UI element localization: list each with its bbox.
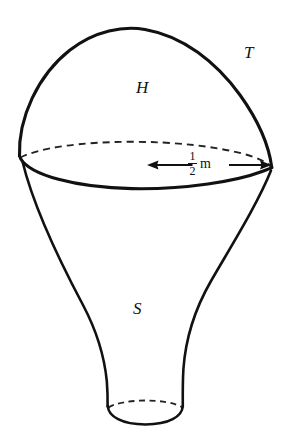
stem-right-edge — [183, 171, 271, 407]
dimension-unit: m — [200, 157, 211, 171]
solid-of-revolution-drawing — [0, 0, 289, 445]
stem-base-hidden-arc — [109, 401, 183, 408]
fraction-one-half: 1 2 — [188, 150, 197, 177]
stem-left-edge — [23, 162, 108, 407]
label-hemisphere-H: H — [136, 79, 148, 96]
label-stem-S: S — [133, 300, 142, 317]
equator-hidden-arc — [21, 142, 272, 167]
fraction-numerator: 1 — [189, 150, 197, 162]
fraction-denominator: 2 — [189, 165, 197, 177]
label-top-surface-T: T — [244, 44, 253, 61]
radius-arrow-left-head — [147, 161, 159, 170]
radius-dimension-label: 1 2 m — [188, 150, 211, 177]
figure-canvas: T H S 1 2 m — [0, 0, 289, 445]
equator-visible-arc — [21, 159, 272, 189]
stem-base-visible-arc — [108, 406, 183, 425]
